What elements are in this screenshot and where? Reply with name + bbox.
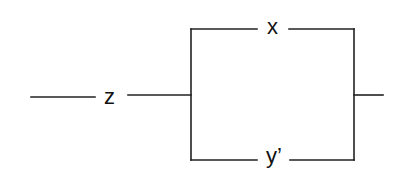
switch-x-label: x [267, 14, 278, 39]
switching-circuit-diagram: z x y’ [0, 0, 402, 178]
switch-y-prime-label: y’ [266, 143, 282, 168]
switch-z-label: z [104, 84, 115, 109]
